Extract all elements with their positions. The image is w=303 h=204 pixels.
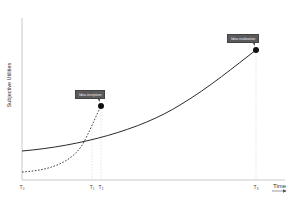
callout-idea-realization: Idea realization [227,34,259,43]
x-axis-label: Time [273,183,286,189]
callout-idea-inception: Idea inception [75,90,105,99]
tick-t1: T₁ [90,184,95,190]
endpoint-dot-left [98,103,104,109]
solid-utility-curve [22,50,256,151]
utility-chart [0,0,303,204]
tick-t2: T₂ [99,184,104,190]
y-axis-label: Subjective Utilities [2,20,16,150]
tick-t0: T₀ [19,184,24,190]
tick-t3: T₃ [253,184,258,190]
dotted-utility-curve [22,106,101,172]
endpoint-dot-right [253,47,259,53]
